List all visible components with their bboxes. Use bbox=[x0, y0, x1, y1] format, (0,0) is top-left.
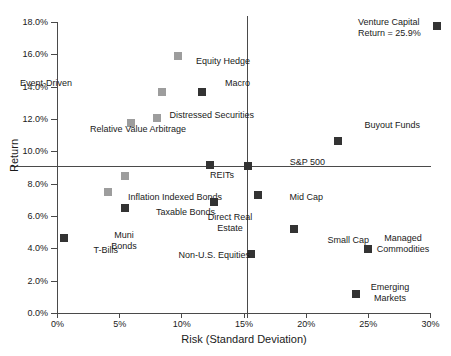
x-tick-mark bbox=[119, 313, 120, 318]
data-point-marker[interactable] bbox=[206, 161, 214, 169]
data-point-label: Small Cap bbox=[299, 235, 369, 246]
data-point-marker[interactable] bbox=[158, 88, 166, 96]
y-axis-title: Return bbox=[9, 116, 20, 196]
data-point-label: Direct Real Estate bbox=[205, 212, 255, 233]
x-tick-mark bbox=[306, 313, 307, 318]
data-point-label: S&P 500 bbox=[255, 157, 325, 168]
y-tick-label: 2.0% bbox=[0, 277, 48, 286]
plot-area: 0.0%2.0%4.0%6.0%8.0%10.0%12.0%14.0%16.0%… bbox=[0, 0, 451, 356]
data-point-marker[interactable] bbox=[334, 137, 342, 145]
y-tick-mark bbox=[51, 281, 57, 282]
y-tick-label: 4.0% bbox=[0, 244, 48, 253]
x-tick-label: 0% bbox=[38, 320, 78, 329]
data-point-label: Macro bbox=[160, 78, 250, 89]
data-point-label: Venture Capital Return = 25.9% bbox=[358, 17, 451, 38]
reference-line-horizontal bbox=[11, 166, 431, 167]
x-tick-mark bbox=[368, 313, 369, 318]
x-axis-title: Risk (Standard Deviation) bbox=[57, 334, 431, 345]
data-point-label: T-Bills bbox=[58, 245, 118, 256]
y-tick-mark bbox=[51, 119, 57, 120]
data-point-marker[interactable] bbox=[60, 234, 68, 242]
y-tick-mark bbox=[51, 151, 57, 152]
y-tick-label: 6.0% bbox=[0, 212, 48, 221]
x-tick-mark bbox=[181, 313, 182, 318]
x-tick-mark bbox=[244, 313, 245, 318]
data-point-label: Non-U.S. Equities bbox=[170, 250, 250, 261]
y-tick-mark bbox=[51, 22, 57, 23]
data-point-marker[interactable] bbox=[254, 191, 262, 199]
y-tick-label: 8.0% bbox=[0, 180, 48, 189]
data-point-marker[interactable] bbox=[104, 188, 112, 196]
y-tick-mark bbox=[51, 248, 57, 249]
x-tick-label: 25% bbox=[348, 320, 388, 329]
x-tick-label: 15% bbox=[224, 320, 264, 329]
x-tick-label: 5% bbox=[100, 320, 140, 329]
y-tick-label: 16.0% bbox=[0, 50, 48, 59]
x-tick-mark bbox=[57, 313, 58, 318]
data-point-label: Taxable Bonds bbox=[115, 207, 215, 218]
data-point-label: Managed Commodities bbox=[363, 233, 443, 254]
y-tick-mark bbox=[51, 54, 57, 55]
data-point-label: Emerging Markets bbox=[355, 282, 425, 303]
x-tick-mark bbox=[430, 313, 431, 318]
data-point-label: Mid Cap bbox=[263, 192, 323, 203]
data-point-marker[interactable] bbox=[198, 88, 206, 96]
data-point-label: REITs bbox=[174, 170, 234, 181]
x-tick-label: 10% bbox=[162, 320, 202, 329]
data-point-label: Equity Hedge bbox=[160, 56, 250, 67]
data-point-marker[interactable] bbox=[210, 198, 218, 206]
data-point-label: Distressed Securities bbox=[134, 110, 254, 121]
data-point-label: Event-Driven bbox=[20, 78, 130, 89]
data-point-marker[interactable] bbox=[244, 162, 252, 170]
data-point-marker[interactable] bbox=[121, 204, 129, 212]
data-point-label: Relative Value Arbitrage bbox=[56, 124, 186, 135]
y-tick-mark bbox=[51, 216, 57, 217]
x-tick-label: 30% bbox=[411, 320, 451, 329]
scatter-chart: 0.0%2.0%4.0%6.0%8.0%10.0%12.0%14.0%16.0%… bbox=[0, 0, 451, 356]
x-tick-label: 20% bbox=[286, 320, 326, 329]
data-point-marker[interactable] bbox=[121, 172, 129, 180]
y-tick-mark bbox=[51, 184, 57, 185]
y-tick-label: 0.0% bbox=[0, 309, 48, 318]
y-axis-line bbox=[57, 22, 58, 314]
data-point-marker[interactable] bbox=[290, 225, 298, 233]
y-tick-label: 12.0% bbox=[0, 115, 48, 124]
y-tick-label: 18.0% bbox=[0, 18, 48, 27]
data-point-label: Buyout Funds bbox=[330, 120, 420, 131]
